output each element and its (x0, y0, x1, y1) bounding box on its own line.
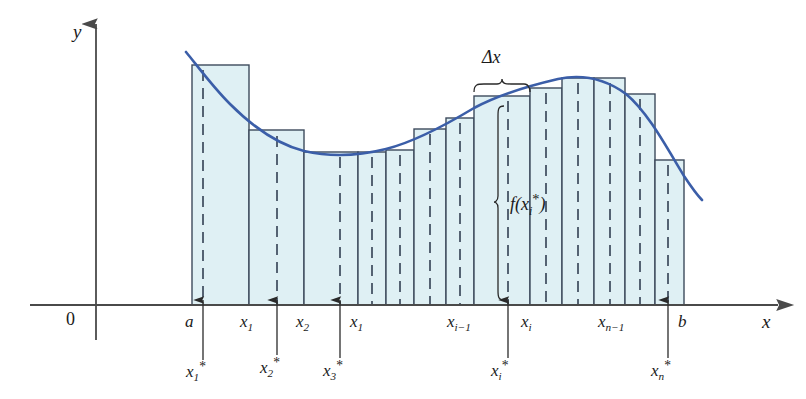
sample-base: x (651, 361, 659, 380)
tick-base: x (240, 312, 248, 331)
sample-label-x1-star: x1* (186, 360, 206, 383)
f-value-close: ) (540, 194, 546, 214)
tick-base: x (447, 312, 455, 331)
y-axis-label: y (73, 22, 81, 41)
sample-star: * (336, 358, 343, 373)
delta-symbol: Δ (482, 47, 493, 67)
tick-label-a: a (185, 313, 194, 330)
tick-sub: 1 (358, 321, 364, 333)
riemann-rect (655, 160, 684, 305)
tick-sub: 1 (248, 321, 254, 333)
sample-label-x2-star: x2* (260, 356, 280, 379)
tick-label-x3: x1 (350, 313, 363, 333)
f-value-star: * (532, 191, 539, 207)
tick-sub: 2 (304, 321, 310, 333)
x-axis-label: x (762, 312, 770, 331)
origin-label: 0 (66, 310, 75, 328)
tick-base: x (350, 312, 358, 331)
riemann-rect (192, 65, 249, 305)
sample-base: x (260, 358, 268, 377)
tick-base: a (185, 312, 194, 331)
sample-base: x (491, 361, 499, 380)
sample-base: x (323, 361, 331, 380)
riemann-sum-figure (0, 0, 806, 399)
sample-star: * (273, 355, 280, 370)
riemann-rect (358, 152, 386, 305)
tick-sub: n−1 (606, 321, 625, 333)
tick-base: x (296, 312, 304, 331)
sample-star: * (502, 358, 509, 373)
delta-x-variable: x (493, 47, 501, 67)
tick-base: b (678, 312, 687, 331)
tick-label-x1: x1 (240, 313, 253, 333)
sample-base: x (186, 362, 194, 381)
tick-sub: i−1 (455, 321, 471, 333)
sample-label-xn-star: xn* (651, 359, 671, 382)
tick-sub: i (529, 321, 532, 333)
tick-base: x (521, 312, 529, 331)
sample-star: * (664, 358, 671, 373)
f-value-text: f(x (510, 194, 529, 214)
tick-label-xi: xi (521, 313, 532, 333)
f-value-label: f(xi*) (510, 192, 546, 218)
delta-x-label: Δx (482, 48, 501, 66)
tick-label-xi-1: xi−1 (447, 313, 471, 333)
sample-star: * (199, 359, 206, 374)
sample-label-x3-star: x3* (323, 359, 343, 382)
sample-label-xi-star: xi* (491, 359, 508, 382)
tick-label-xn-1: xn−1 (598, 313, 624, 333)
tick-base: x (598, 312, 606, 331)
tick-label-b: b (678, 313, 687, 330)
riemann-rect (304, 152, 358, 305)
tick-label-x2: x2 (296, 313, 309, 333)
